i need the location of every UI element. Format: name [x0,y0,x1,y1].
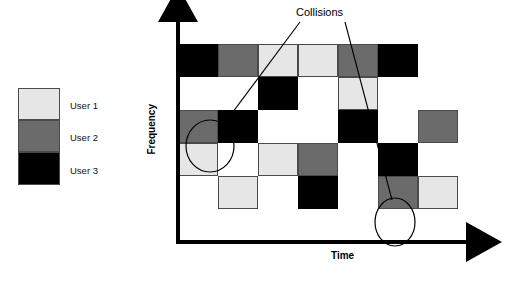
slot-block [218,176,258,209]
chart-plot-area: Collisions Frequency Time [0,0,514,282]
slot-block [258,143,298,176]
x-axis-title: Time [331,251,354,261]
slot-block [298,143,338,176]
slot-block [178,110,218,143]
slot-block [258,44,298,77]
slot-block [378,44,418,77]
slot-block [218,110,258,143]
slot-block [338,77,378,110]
frequency-hopping-diagram: User 1 User 2 User 3 C [0,0,514,282]
slot-block [338,110,378,143]
slot-block [258,77,298,110]
slot-block [378,143,418,176]
slot-block [178,44,218,77]
slot-block [418,110,458,143]
slot-block [338,44,378,77]
y-axis-title: Frequency [147,104,157,155]
slot-block [378,176,418,209]
slot-block [298,176,338,209]
slot-block [178,143,218,176]
slot-block [298,44,338,77]
collisions-callout-label: Collisions [296,7,343,18]
slot-block [218,44,258,77]
slot-block [418,176,458,209]
